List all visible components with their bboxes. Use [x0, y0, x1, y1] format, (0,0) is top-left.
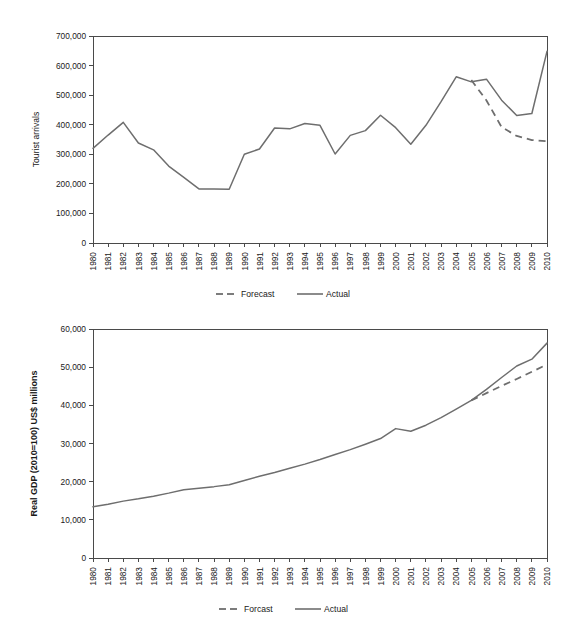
y-tick-label: 20,000 [61, 477, 87, 487]
x-tick-label: 1985 [164, 252, 174, 271]
chart-tourist-arrivals: 0100,000200,000300,000400,000500,000600,… [0, 0, 580, 312]
y-tick-label: 30,000 [61, 439, 87, 449]
x-tick-label: 1995 [315, 567, 325, 586]
x-tick-label: 1987 [194, 567, 204, 586]
y-tick-label: 400,000 [56, 120, 86, 130]
x-tick-label: 2006 [482, 567, 492, 586]
x-tick-label: 2004 [451, 252, 461, 271]
x-tick-label: 1992 [270, 252, 280, 271]
x-tick-label: 1984 [149, 252, 159, 271]
plot-area-gdp: 010,00020,00030,00040,00050,00060,000198… [29, 324, 552, 614]
chart-real-gdp-svg: 010,00020,00030,00040,00050,00060,000198… [0, 312, 580, 624]
legend-label: Actual [326, 289, 350, 299]
x-tick-label: 1991 [255, 567, 265, 586]
x-tick-label: 1993 [285, 252, 295, 271]
x-tick-label: 1981 [103, 567, 113, 586]
legend-label: Forcast [244, 604, 273, 614]
x-tick-label: 1987 [194, 252, 204, 271]
x-tick-label: 1998 [361, 252, 371, 271]
x-tick-label: 1986 [179, 252, 189, 271]
x-tick-label: 1988 [209, 567, 219, 586]
series-line-actual [93, 343, 547, 507]
legend-label: Actual [324, 604, 348, 614]
y-tick-label: 200,000 [56, 179, 86, 189]
x-tick-label: 1980 [88, 252, 98, 271]
x-tick-label: 2007 [497, 252, 507, 271]
x-tick-label: 1995 [315, 252, 325, 271]
x-tick-label: 2001 [406, 567, 416, 586]
legend-label: Forecast [241, 289, 275, 299]
x-tick-label: 2009 [527, 567, 537, 586]
x-tick-label: 1998 [361, 567, 371, 586]
x-tick-label: 2005 [467, 252, 477, 271]
y-tick-label: 500,000 [56, 90, 86, 100]
x-tick-label: 1984 [149, 567, 159, 586]
chart-real-gdp: 010,00020,00030,00040,00050,00060,000198… [0, 312, 580, 624]
x-tick-label: 1982 [118, 252, 128, 271]
x-tick-label: 2010 [542, 567, 552, 586]
series-line-forecast [471, 80, 547, 141]
x-tick-label: 1990 [240, 252, 250, 271]
x-tick-label: 2005 [467, 567, 477, 586]
chart-frame [93, 36, 547, 243]
x-tick-label: 1994 [300, 252, 310, 271]
y-tick-label: 700,000 [56, 31, 86, 41]
y-tick-label: 60,000 [61, 324, 87, 334]
x-tick-label: 1993 [285, 567, 295, 586]
x-tick-label: 1997 [345, 567, 355, 586]
x-tick-label: 1985 [164, 567, 174, 586]
y-tick-label: 40,000 [61, 400, 87, 410]
x-tick-label: 2003 [436, 567, 446, 586]
x-tick-label: 2008 [512, 252, 522, 271]
y-tick-label: 0 [81, 553, 86, 563]
y-tick-label: 100,000 [56, 208, 86, 218]
x-tick-label: 1997 [345, 252, 355, 271]
x-tick-label: 2000 [391, 252, 401, 271]
x-tick-label: 1999 [376, 252, 386, 271]
y-tick-label: 10,000 [61, 515, 87, 525]
x-tick-label: 2010 [542, 252, 552, 271]
x-tick-label: 2009 [527, 252, 537, 271]
y-axis-title: Real GDP (2010=100) US$ millions [29, 370, 39, 516]
y-axis-title: Tourist arrivals [31, 112, 41, 167]
x-tick-label: 2006 [482, 252, 492, 271]
y-tick-label: 600,000 [56, 61, 86, 71]
x-tick-label: 2001 [406, 252, 416, 271]
x-tick-label: 1990 [240, 567, 250, 586]
series-line-forcast [471, 365, 547, 401]
x-tick-label: 2000 [391, 567, 401, 586]
y-tick-label: 50,000 [61, 362, 87, 372]
x-tick-label: 1983 [134, 567, 144, 586]
x-tick-label: 1989 [224, 252, 234, 271]
x-tick-label: 2008 [512, 567, 522, 586]
x-tick-label: 1996 [330, 252, 340, 271]
chart-frame [93, 329, 547, 558]
y-tick-label: 300,000 [56, 149, 86, 159]
y-tick-label: 0 [81, 238, 86, 248]
x-tick-label: 2002 [421, 252, 431, 271]
x-tick-label: 2007 [497, 567, 507, 586]
x-tick-label: 1980 [88, 567, 98, 586]
x-tick-label: 2003 [436, 252, 446, 271]
x-tick-label: 1991 [255, 252, 265, 271]
x-tick-label: 1983 [134, 252, 144, 271]
x-tick-label: 1994 [300, 567, 310, 586]
x-tick-label: 1986 [179, 567, 189, 586]
x-tick-label: 1989 [224, 567, 234, 586]
plot-area-tourist: 0100,000200,000300,000400,000500,000600,… [31, 31, 552, 299]
chart-tourist-arrivals-svg: 0100,000200,000300,000400,000500,000600,… [0, 0, 580, 312]
series-line-actual [93, 51, 547, 189]
x-tick-label: 1999 [376, 567, 386, 586]
x-tick-label: 1982 [118, 567, 128, 586]
x-tick-label: 1996 [330, 567, 340, 586]
x-tick-label: 2004 [451, 567, 461, 586]
x-tick-label: 1992 [270, 567, 280, 586]
x-tick-label: 1981 [103, 252, 113, 271]
x-tick-label: 2002 [421, 567, 431, 586]
x-tick-label: 1988 [209, 252, 219, 271]
